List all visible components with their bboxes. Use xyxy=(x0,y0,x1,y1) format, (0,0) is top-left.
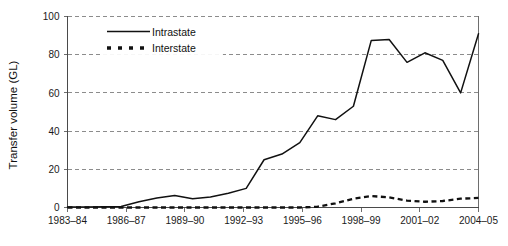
x-tick-label-3: 1992–93 xyxy=(224,215,263,226)
y-tick-label-20: 20 xyxy=(48,164,60,175)
y-axis-title: Transfer volume (GL) xyxy=(7,60,19,169)
chart-container: Transfer volume (GL) 020406080100 1983–8… xyxy=(0,0,508,246)
legend: Intrastate Interstate xyxy=(101,21,223,57)
x-tick-label-4: 1995–96 xyxy=(283,215,322,226)
x-tick-label-5: 1998–99 xyxy=(342,215,381,226)
legend-label-intrastate: Intrastate xyxy=(152,26,196,38)
y-tick-label-40: 40 xyxy=(48,126,60,137)
y-tick-label-80: 80 xyxy=(48,49,60,60)
y-tick-label-60: 60 xyxy=(48,88,60,99)
y-tick-label-100: 100 xyxy=(43,11,60,22)
x-tick-label-1: 1986–87 xyxy=(107,215,146,226)
y-tick-label-0: 0 xyxy=(54,202,60,213)
legend-label-interstate: Interstate xyxy=(152,42,196,54)
x-tick-label-7: 2004–05 xyxy=(459,215,498,226)
line-chart: Transfer volume (GL) 020406080100 1983–8… xyxy=(0,0,508,246)
x-tick-label-0: 1983–84 xyxy=(48,215,87,226)
x-tick-label-2: 1989–90 xyxy=(165,215,204,226)
x-tick-label-6: 2001–02 xyxy=(400,215,439,226)
chart-background xyxy=(0,0,508,246)
